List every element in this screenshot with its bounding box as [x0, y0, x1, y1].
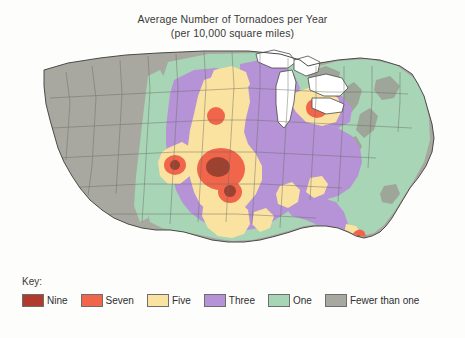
legend-item-nine[interactable]: Nine — [22, 294, 68, 307]
map-svg — [8, 36, 458, 276]
legend-label-five: Five — [172, 295, 191, 306]
legend-label-one: One — [293, 295, 312, 306]
legend: Key: Nine Seven Five Three One — [22, 276, 462, 307]
legend-swatch-one — [268, 294, 290, 307]
legend-items: Nine Seven Five Three One Fewer than one — [22, 294, 462, 307]
legend-label-nine: Nine — [47, 295, 68, 306]
legend-item-one[interactable]: One — [268, 294, 312, 307]
legend-swatch-fewer-than-one — [325, 294, 347, 307]
legend-item-seven[interactable]: Seven — [81, 294, 134, 307]
legend-swatch-nine — [22, 294, 44, 307]
legend-swatch-seven — [81, 294, 103, 307]
legend-item-five[interactable]: Five — [147, 294, 191, 307]
legend-item-fewer-than-one[interactable]: Fewer than one — [325, 294, 420, 307]
legend-swatch-five — [147, 294, 169, 307]
tornado-choropleth-map — [8, 36, 458, 276]
legend-item-three[interactable]: Three — [204, 294, 255, 307]
legend-label-fewer-than-one: Fewer than one — [350, 295, 420, 306]
legend-title: Key: — [22, 276, 462, 287]
legend-label-three: Three — [229, 295, 255, 306]
legend-label-seven: Seven — [106, 295, 134, 306]
title-line-1: Average Number of Tornadoes per Year — [0, 12, 465, 26]
legend-swatch-three — [204, 294, 226, 307]
tornado-map-figure: Average Number of Tornadoes per Year (pe… — [0, 0, 465, 338]
